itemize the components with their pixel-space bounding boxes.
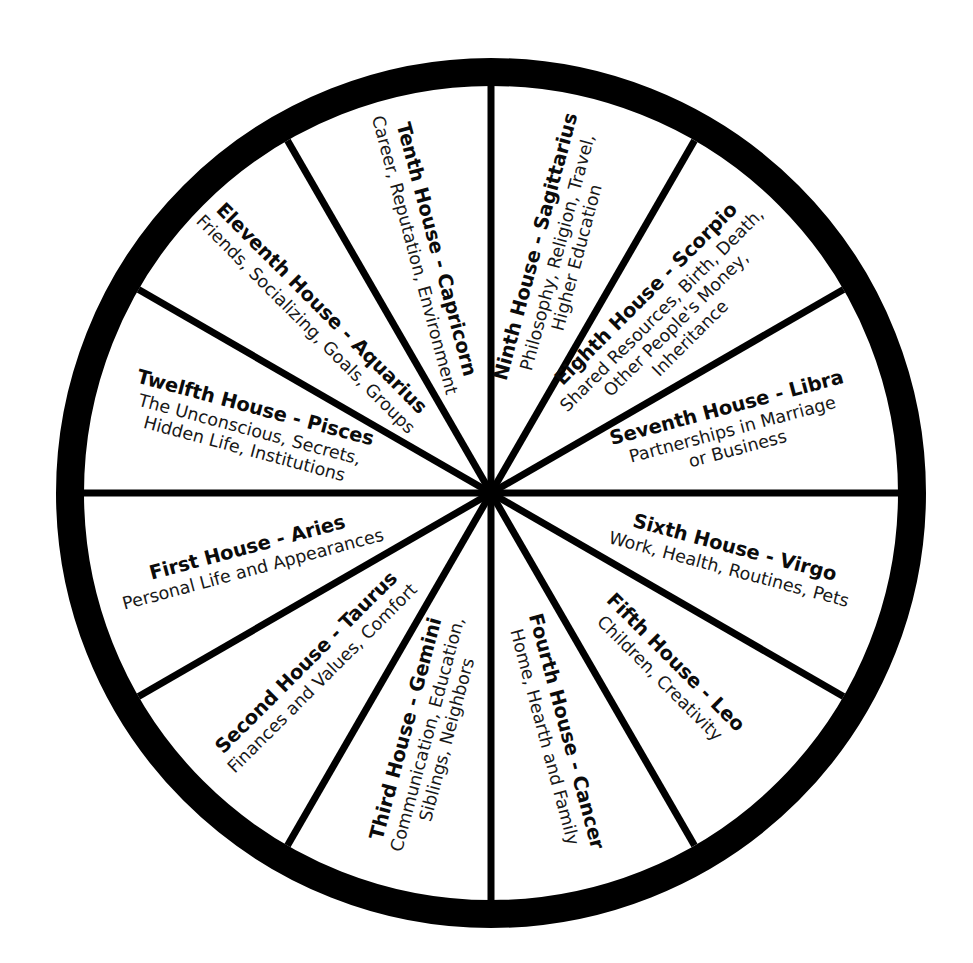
astrology-wheel-diagram: First House - AriesPersonal Life and App… bbox=[0, 0, 973, 963]
wheel-graphic bbox=[0, 0, 973, 963]
